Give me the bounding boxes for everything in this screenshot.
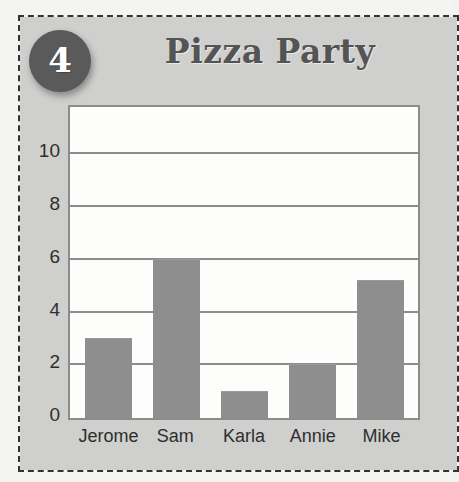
page-title: Pizza Party [120, 32, 420, 71]
problem-number-badge: 4 [29, 30, 91, 92]
problem-number-label: 4 [48, 43, 72, 77]
chart-header: 4 Pizza Party [20, 22, 453, 100]
